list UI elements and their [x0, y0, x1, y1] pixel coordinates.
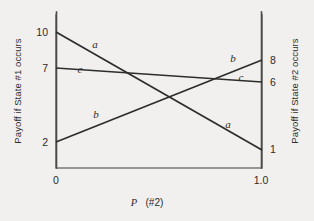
x-axis-ticks: 0 1.0 [53, 174, 268, 186]
payoff-diagram-figure: 10 7 2 8 6 1 0 1.0 P (#2) Payoff if Stat… [0, 0, 314, 221]
left-tick-label-7: 7 [42, 62, 48, 74]
x-axis-title: P (#2) [130, 192, 164, 209]
curve-label-b-right: b [230, 52, 236, 64]
curve-label-a-right: a [225, 118, 231, 130]
data-series-group [56, 32, 262, 150]
curve-label-c-right: c [239, 71, 244, 83]
right-tick-label-8: 8 [270, 54, 276, 66]
right-tick-label-1: 1 [270, 143, 276, 155]
series-line-a [56, 32, 262, 150]
left-axis-title-group: Payoff if State #1 occurs [12, 38, 23, 143]
right-axis-title-group: Payoff if State #2 occurs [289, 38, 300, 143]
right-axis-ticks: 8 6 1 [270, 54, 276, 155]
left-axis-ticks: 10 7 2 [36, 26, 48, 148]
left-axis-title: Payoff if State #1 occurs [12, 38, 23, 143]
chart-canvas: 10 7 2 8 6 1 0 1.0 P (#2) Payoff if Stat… [0, 0, 314, 221]
curve-label-a-left: a [92, 38, 98, 50]
right-axis-title: Payoff if State #2 occurs [289, 38, 300, 143]
left-tick-label-2: 2 [42, 136, 48, 148]
curve-label-b-left: b [93, 108, 99, 120]
x-tick-label-1: 1.0 [254, 174, 269, 186]
axes-lines [57, 12, 262, 168]
series-line-c [56, 68, 262, 82]
right-tick-label-6: 6 [270, 76, 276, 88]
x-axis-title-group: P (#2) [130, 192, 164, 209]
curve-label-c-left: c [78, 63, 83, 75]
x-tick-label-0: 0 [53, 174, 59, 186]
left-tick-label-10: 10 [36, 26, 48, 38]
curve-labels-group: a a b b c c [78, 38, 244, 130]
x-axis-title-sub: (#2) [146, 197, 164, 208]
x-axis-title-main: P [130, 197, 138, 208]
series-line-b [56, 60, 262, 142]
